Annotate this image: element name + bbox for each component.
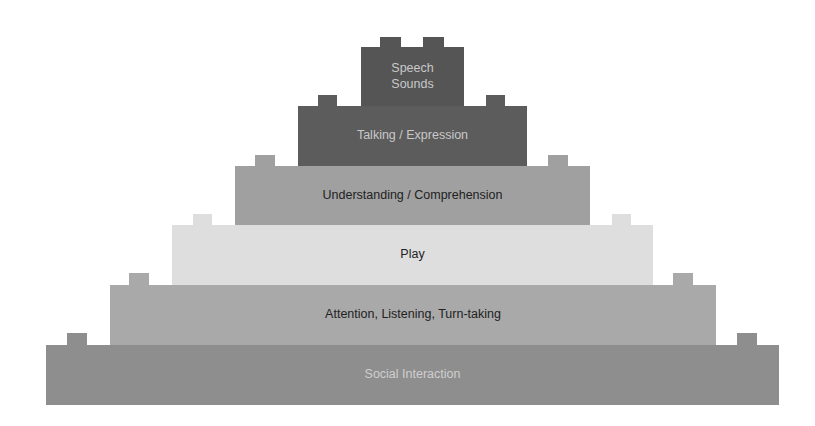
layer-label: Talking / Expression [357,128,468,144]
layer-label: Attention, Listening, Turn-taking [325,307,501,323]
layer-label: Play [400,247,424,263]
layer-label-line: Sounds [391,77,433,91]
layer-label-line: Speech [391,61,433,75]
layer-label: SpeechSounds [391,61,433,92]
layer-block: SpeechSounds [361,47,464,107]
language-pyramid-diagram: SpeechSoundsTalking / ExpressionUndersta… [0,0,815,426]
layer-block: Play [172,225,653,285]
layer-block: Attention, Listening, Turn-taking [110,285,716,345]
layer-block: Understanding / Comprehension [235,166,590,225]
layer-label: Understanding / Comprehension [323,188,503,204]
layer-block: Social Interaction [46,345,779,405]
layer-block: Talking / Expression [298,106,527,166]
layer-label: Social Interaction [365,367,461,383]
